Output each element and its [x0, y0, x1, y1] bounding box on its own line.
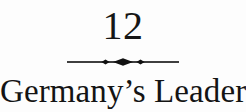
diamond-ornament-icon [67, 55, 179, 69]
diamond-ornament-divider [0, 52, 246, 72]
chapter-number: 12 [0, 4, 246, 48]
chapter-opener: 12 Germany’s Leaders [0, 0, 246, 112]
chapter-title: Germany’s Leaders [0, 72, 246, 110]
